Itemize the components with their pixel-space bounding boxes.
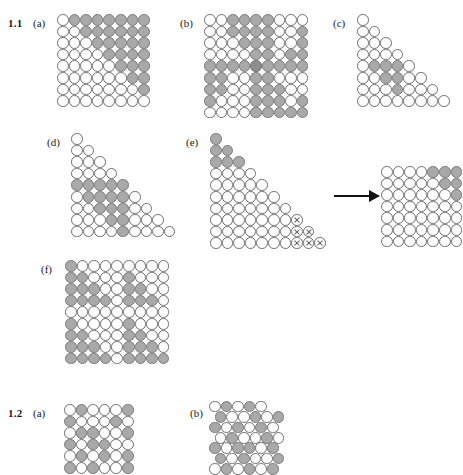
open-circle-icon: [256, 226, 268, 238]
filled-circle-icon: [274, 95, 286, 107]
open-circle-icon: [57, 49, 69, 61]
open-circle-icon: [158, 318, 170, 330]
open-circle-icon: [404, 236, 416, 248]
open-circle-icon: [100, 283, 112, 295]
circle-grid-1-1-f: [65, 260, 169, 364]
open-circle-icon: [427, 236, 439, 248]
open-circle-icon: [135, 318, 147, 330]
open-circle-icon: [88, 272, 100, 284]
circle-row: [204, 26, 308, 38]
filled-circle-icon: [115, 37, 127, 49]
open-circle-icon: [393, 189, 405, 201]
open-circle-icon: [69, 84, 81, 96]
filled-circle-icon: [250, 60, 262, 72]
open-circle-icon: [256, 237, 268, 249]
filled-circle-icon: [92, 14, 104, 26]
open-circle-icon: [57, 84, 69, 96]
filled-circle-icon: [233, 156, 245, 168]
filled-circle-icon: [115, 14, 127, 26]
open-circle-icon: [57, 95, 69, 107]
open-circle-icon: [403, 84, 415, 96]
filled-circle-icon: [244, 463, 256, 475]
filled-circle-icon: [158, 353, 170, 365]
circle-row: [71, 203, 175, 215]
filled-circle-icon: [76, 404, 88, 416]
open-circle-icon: [216, 49, 228, 61]
open-circle-icon: [141, 203, 153, 215]
open-circle-icon: [256, 179, 268, 191]
open-circle-icon: [393, 212, 405, 224]
filled-circle-icon: [123, 341, 135, 353]
open-circle-icon: [393, 224, 405, 236]
circle-row: [204, 60, 308, 72]
filled-circle-icon: [106, 214, 118, 226]
filled-circle-icon: [92, 26, 104, 38]
circle-row: [65, 283, 169, 295]
open-circle-icon: [357, 49, 369, 61]
open-circle-icon: [222, 237, 234, 249]
open-circle-icon: [393, 166, 405, 178]
filled-circle-icon: [262, 95, 274, 107]
filled-circle-icon: [222, 145, 234, 157]
circle-row: [381, 178, 462, 190]
open-circle-icon: [280, 214, 292, 226]
filled-circle-icon: [87, 427, 99, 439]
open-circle-icon: [380, 37, 392, 49]
open-circle-icon: [222, 168, 234, 180]
filled-circle-icon: [88, 341, 100, 353]
filled-circle-icon: [297, 95, 309, 107]
open-circle-icon: [245, 226, 257, 238]
open-circle-icon: [111, 353, 123, 365]
open-circle-icon: [227, 84, 239, 96]
filled-circle-icon: [297, 107, 309, 119]
open-circle-icon: [83, 214, 95, 226]
filled-circle-icon: [227, 60, 239, 72]
filled-circle-icon: [239, 14, 251, 26]
circle-row: [64, 404, 134, 416]
open-circle-icon: [71, 226, 83, 238]
filled-circle-icon: [77, 272, 89, 284]
filled-circle-icon: [99, 450, 111, 462]
filled-circle-icon: [392, 72, 404, 84]
filled-circle-icon: [380, 72, 392, 84]
circle-row: [71, 133, 175, 145]
panel-label-1-1-e: (e): [186, 136, 198, 148]
filled-circle-icon: [138, 14, 150, 26]
filled-circle-icon: [297, 26, 309, 38]
filled-circle-icon: [127, 37, 139, 49]
open-circle-icon: [427, 212, 439, 224]
filled-circle-icon: [250, 14, 262, 26]
filled-circle-icon: [262, 37, 274, 49]
circle-row: [210, 179, 326, 191]
open-circle-icon: [416, 224, 428, 236]
open-circle-icon: [222, 214, 234, 226]
filled-circle-icon: [77, 330, 89, 342]
open-circle-icon: [77, 306, 89, 318]
open-circle-icon: [158, 330, 170, 342]
transform-arrow-icon: [334, 190, 380, 202]
open-circle-icon: [222, 203, 234, 215]
filled-circle-icon: [250, 107, 262, 119]
open-circle-icon: [369, 37, 381, 49]
open-circle-icon: [451, 224, 463, 236]
open-circle-icon: [57, 14, 69, 26]
filled-circle-icon: [65, 353, 77, 365]
circle-row: [204, 14, 308, 26]
open-circle-icon: [110, 462, 122, 474]
filled-circle-icon: [106, 203, 118, 215]
open-circle-icon: [127, 95, 139, 107]
circle-row: [204, 72, 308, 84]
circle-row: [204, 95, 308, 107]
open-circle-icon: [158, 260, 170, 272]
open-circle-icon: [227, 49, 239, 61]
open-circle-icon: [245, 237, 257, 249]
filled-circle-icon: [88, 353, 100, 365]
filled-circle-icon: [92, 37, 104, 49]
open-circle-icon: [415, 95, 427, 107]
open-circle-icon: [393, 178, 405, 190]
open-circle-icon: [381, 212, 393, 224]
open-circle-icon: [64, 404, 76, 416]
circle-row: [65, 272, 169, 284]
circle-grid-1-1-d: [71, 133, 175, 237]
open-circle-icon: [274, 49, 286, 61]
